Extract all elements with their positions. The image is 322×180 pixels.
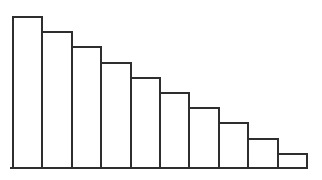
bar-9: [247, 138, 278, 169]
bar-6: [159, 92, 190, 169]
bar-3: [71, 46, 102, 169]
bar-8: [218, 122, 249, 169]
bar-1: [12, 16, 43, 169]
x-axis-line: [10, 167, 307, 170]
plot-area: [0, 0, 322, 180]
bar-2: [41, 31, 72, 169]
descending-bar-chart: [0, 0, 322, 180]
bar-5: [130, 77, 161, 169]
bar-7: [188, 107, 219, 169]
bar-4: [100, 62, 131, 169]
